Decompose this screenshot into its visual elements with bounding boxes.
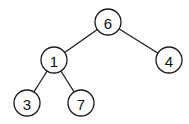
node-label: 1: [50, 53, 58, 70]
tree-diagram: 6 1 4 3 7: [0, 0, 189, 124]
tree-node-left: 1: [41, 47, 67, 73]
node-label: 7: [77, 96, 85, 113]
tree-node-left-right: 7: [68, 90, 94, 116]
tree-node-root: 6: [95, 9, 121, 35]
tree-node-right: 4: [156, 47, 182, 73]
node-label: 6: [104, 15, 112, 32]
node-label: 3: [23, 96, 31, 113]
tree-node-left-left: 3: [14, 90, 40, 116]
node-label: 4: [165, 53, 173, 70]
